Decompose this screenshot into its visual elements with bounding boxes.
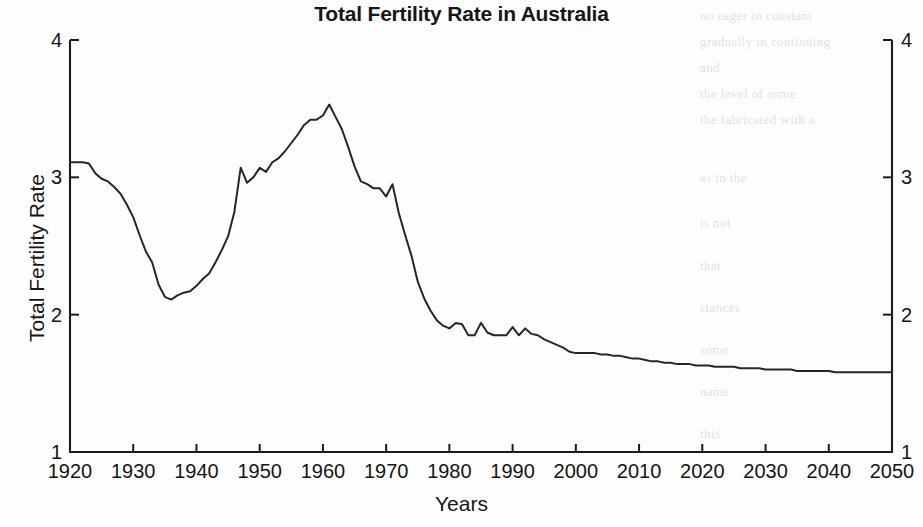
x-tick-label: 2040	[807, 460, 852, 483]
x-tick-label: 1950	[237, 460, 282, 483]
x-tick-label: 1960	[301, 460, 346, 483]
x-tick-label: 1930	[111, 460, 156, 483]
x-tick-label: 2030	[743, 460, 788, 483]
y-tick-label-right: 3	[901, 166, 912, 189]
y-tick-label-left: 1	[36, 441, 62, 464]
y-tick-label-right: 4	[901, 29, 912, 52]
axis-ticks	[70, 40, 892, 452]
y-tick-label-left: 4	[36, 29, 62, 52]
chart-figure: no eager in constant gradually in contin…	[0, 0, 923, 527]
x-tick-label: 2000	[554, 460, 599, 483]
x-tick-label: 1990	[490, 460, 535, 483]
x-axis-label: Years	[0, 492, 923, 516]
y-tick-label-right: 1	[901, 441, 912, 464]
y-tick-label-right: 2	[901, 303, 912, 326]
y-axis-label: Total Fertility Rate	[25, 148, 49, 368]
x-tick-label: 1940	[174, 460, 219, 483]
x-tick-label: 2020	[680, 460, 725, 483]
x-tick-label: 2010	[617, 460, 662, 483]
fertility-rate-line	[70, 105, 892, 373]
x-tick-label: 1980	[427, 460, 472, 483]
axes	[70, 40, 892, 452]
x-tick-label: 1970	[364, 460, 409, 483]
plot-area	[0, 0, 923, 527]
